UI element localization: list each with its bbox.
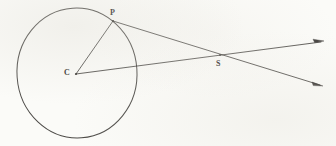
lower-right-arrowhead: [312, 82, 323, 86]
ray-center-through-s: [76, 42, 321, 74]
point-marker-c: [75, 73, 77, 75]
point-label-p: P: [110, 9, 115, 17]
geometry-figure: P C S: [0, 0, 336, 146]
segment-center-to-p: [76, 21, 113, 74]
point-marker-p: [112, 20, 114, 22]
point-marker-s: [219, 54, 221, 56]
figure-canvas: [0, 0, 336, 146]
upper-right-arrowhead: [313, 39, 324, 42]
point-label-s: S: [216, 60, 221, 68]
ray-p-through-s: [113, 21, 320, 85]
point-label-c: C: [64, 69, 70, 77]
